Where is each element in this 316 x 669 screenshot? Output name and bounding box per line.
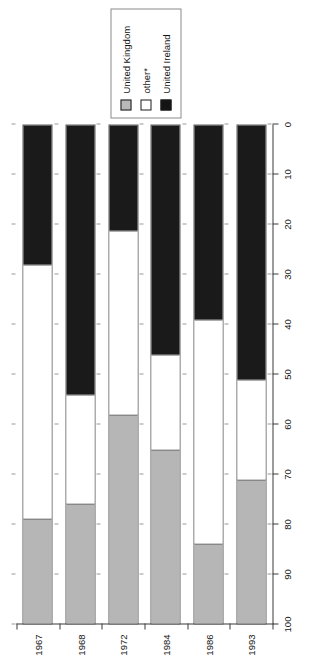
grid-dot — [224, 273, 228, 274]
grid-dot — [224, 223, 228, 224]
grid-dot — [267, 273, 271, 274]
grid-dot — [267, 423, 271, 424]
bar-segment-united-kingdom-1968 — [66, 503, 94, 623]
bar-row — [16, 124, 59, 624]
bar-segment-other-1986 — [194, 319, 222, 543]
bar-segment-other-1972 — [109, 230, 137, 414]
bar-segment-united-ireland-1984 — [151, 125, 179, 354]
stacked-bar-1993 — [236, 124, 266, 624]
value-tick-60 — [272, 423, 278, 424]
grid-dot — [54, 423, 58, 424]
grid-dot — [224, 623, 228, 624]
grid-dot — [11, 423, 15, 424]
value-tick-90 — [272, 573, 278, 574]
grid-dot — [267, 123, 271, 124]
bar-row — [144, 124, 187, 624]
value-label-10: 10 — [281, 169, 292, 180]
bar-segment-united-kingdom-1986 — [194, 543, 222, 623]
value-tick-80 — [272, 523, 278, 524]
grid-dot — [267, 223, 271, 224]
grid-dot — [96, 523, 100, 524]
category-label-1993: 1993 — [229, 627, 272, 669]
grid-dot — [224, 173, 228, 174]
bar-segment-other-1984 — [151, 354, 179, 449]
legend-item-united-kingdom: United Kingdom — [117, 16, 134, 110]
grid-dot — [267, 523, 271, 524]
stacked-bar-1967 — [22, 124, 52, 624]
bar-row — [187, 124, 230, 624]
grid-dot — [182, 473, 186, 474]
legend-label-united-ireland: United Ireland — [160, 34, 171, 93]
grid-dot — [54, 373, 58, 374]
grid-dot — [182, 573, 186, 574]
stacked-bar-1984 — [150, 124, 180, 624]
value-label-50: 50 — [281, 369, 292, 380]
legend-swatch-icon-united-ireland — [160, 99, 171, 110]
grid-dot — [224, 123, 228, 124]
legend-label-other: other* — [140, 68, 151, 93]
grid-dot — [139, 523, 143, 524]
value-tick-10 — [272, 173, 278, 174]
grid-dot — [139, 373, 143, 374]
legend-label-united-kingdom: United Kingdom — [120, 25, 131, 93]
grid-dot — [182, 623, 186, 624]
grid-dot — [54, 123, 58, 124]
grid-dot — [267, 323, 271, 324]
bar-segment-united-ireland-1972 — [109, 125, 137, 230]
value-label-0: 0 — [281, 121, 292, 126]
grid-dot — [267, 573, 271, 574]
category-label-1972: 1972 — [101, 627, 144, 669]
bar-row — [59, 124, 102, 624]
grid-dot — [11, 123, 15, 124]
grid-dot — [224, 473, 228, 474]
category-label-1967: 1967 — [16, 627, 59, 669]
value-tick-20 — [272, 223, 278, 224]
grid-dot — [139, 473, 143, 474]
stacked-bar-1972 — [108, 124, 138, 624]
value-label-40: 40 — [281, 319, 292, 330]
grid-dot — [139, 573, 143, 574]
category-label-1986: 1986 — [187, 627, 230, 669]
grid-dot — [11, 273, 15, 274]
bar-segment-united-ireland-1967 — [23, 125, 51, 264]
grid-dot — [96, 473, 100, 474]
grid-dot — [267, 473, 271, 474]
grid-dot — [224, 523, 228, 524]
grid-dot — [96, 573, 100, 574]
grid-dot — [96, 273, 100, 274]
value-label-30: 30 — [281, 269, 292, 280]
legend-item-other: other* — [137, 16, 154, 110]
grid-dot — [139, 173, 143, 174]
grid-dot — [96, 373, 100, 374]
grid-dot — [96, 173, 100, 174]
category-tick — [59, 623, 60, 629]
grid-dot — [182, 123, 186, 124]
bar-segment-other-1968 — [66, 394, 94, 504]
grid-dot — [139, 273, 143, 274]
value-label-90: 90 — [281, 569, 292, 580]
category-label-1968: 1968 — [59, 627, 102, 669]
bar-row — [101, 124, 144, 624]
grid-dot — [96, 423, 100, 424]
value-label-20: 20 — [281, 219, 292, 230]
grid-dot — [267, 373, 271, 374]
grid-dot — [54, 173, 58, 174]
grid-dot — [182, 223, 186, 224]
grid-dot — [182, 523, 186, 524]
category-tick — [272, 623, 273, 629]
bar-segment-united-ireland-1986 — [194, 125, 222, 319]
legend-item-united-ireland: United Ireland — [157, 16, 174, 110]
grid-dot — [267, 173, 271, 174]
bar-segment-united-kingdom-1967 — [23, 518, 51, 623]
value-axis-labels: 1009080706050403020100 — [281, 124, 297, 624]
bar-segment-united-kingdom-1993 — [237, 479, 265, 623]
grid-dot — [139, 623, 143, 624]
grid-dot — [54, 273, 58, 274]
grid-dot — [11, 473, 15, 474]
grid-dot — [96, 323, 100, 324]
bar-segment-other-1993 — [237, 379, 265, 479]
grid-dot — [182, 323, 186, 324]
grid-dot — [139, 423, 143, 424]
chart-legend: United Kingdom other* United Ireland — [110, 8, 181, 118]
value-tick-0 — [272, 123, 278, 124]
